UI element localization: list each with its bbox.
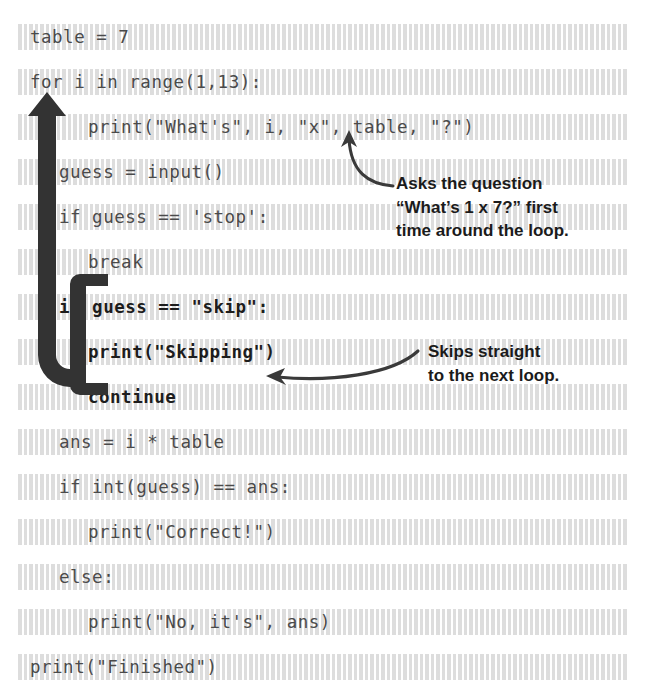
annotation-asks-question: Asks the question“What’s 1 x 7?” firstti… — [396, 172, 569, 243]
code-line-text: break — [88, 249, 143, 275]
code-line: if guess == "skip": — [0, 294, 665, 320]
code-line-text: if int(guess) == ans: — [59, 474, 291, 500]
code-line: print("Finished") — [0, 654, 665, 680]
code-line: for i in range(1,13): — [0, 69, 665, 95]
code-line-text: print("Correct!") — [88, 519, 276, 545]
code-line-text: else: — [59, 564, 114, 590]
code-line: print("Skipping") — [0, 339, 665, 365]
skip-block-brace — [70, 274, 108, 395]
code-line-text: print("What's", i, "x", table, "?") — [88, 114, 474, 140]
annotation-skips-straight: Skips straightto the next loop. — [428, 340, 559, 387]
annotation-line: Asks the question — [396, 172, 569, 196]
code-line-text: print("Skipping") — [88, 339, 276, 365]
code-line-text: table = 7 — [30, 24, 129, 50]
code-line-text: ans = i * table — [59, 429, 225, 455]
code-line-text: guess = input() — [59, 159, 225, 185]
code-line-text: print("No, it's", ans) — [88, 609, 331, 635]
code-line: else: — [0, 564, 665, 590]
code-line: table = 7 — [0, 24, 665, 50]
code-line: ans = i * table — [0, 429, 665, 455]
annotation-line: Skips straight — [428, 340, 559, 364]
annotation-line: to the next loop. — [428, 364, 559, 388]
code-line-text: if guess == "skip": — [59, 294, 269, 320]
code-line-text: for i in range(1,13): — [30, 69, 262, 95]
annotation-line: “What’s 1 x 7?” first — [396, 196, 569, 220]
code-line-text: if guess == 'stop': — [59, 204, 269, 230]
code-figure: table = 7for i in range(1,13):print("Wha… — [0, 0, 665, 687]
code-line-text: print("Finished") — [30, 654, 218, 680]
code-line: print("Correct!") — [0, 519, 665, 545]
code-line: break — [0, 249, 665, 275]
code-line-text: continue — [88, 384, 176, 410]
code-line: if int(guess) == ans: — [0, 474, 665, 500]
code-line: print("No, it's", ans) — [0, 609, 665, 635]
code-line: continue — [0, 384, 665, 410]
annotation-line: time around the loop. — [396, 219, 569, 243]
code-line: print("What's", i, "x", table, "?") — [0, 114, 665, 140]
